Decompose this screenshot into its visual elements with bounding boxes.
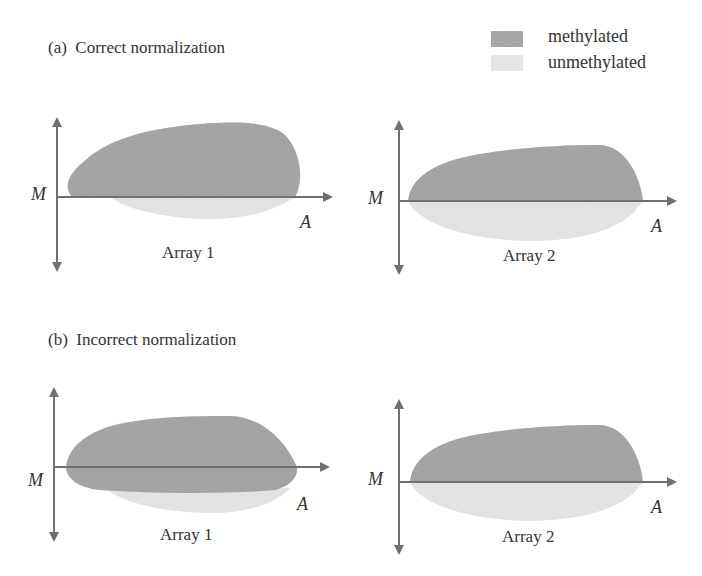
panel-b-array-1-plot bbox=[54, 392, 325, 537]
methylated-cloud bbox=[68, 123, 301, 197]
y-axis-label: M bbox=[368, 469, 383, 490]
array-label: Array 1 bbox=[162, 243, 214, 263]
legend-swatch-methylated bbox=[491, 31, 523, 47]
diagram-canvas bbox=[0, 0, 702, 576]
methylated-cloud bbox=[408, 145, 643, 201]
array-label: Array 2 bbox=[502, 527, 554, 547]
legend-label-unmethylated: unmethylated bbox=[548, 52, 646, 73]
panel-a-title: (a) Correct normalization bbox=[48, 38, 225, 58]
methylated-cloud bbox=[410, 425, 643, 482]
legend-swatch-unmethylated bbox=[491, 55, 523, 71]
unmethylated-cloud bbox=[110, 197, 295, 219]
panel-b-title: (b) Incorrect normalization bbox=[48, 330, 236, 350]
x-axis-label: A bbox=[651, 216, 662, 237]
x-axis-label: A bbox=[651, 497, 662, 518]
y-axis-label: M bbox=[28, 470, 43, 491]
y-axis-label: M bbox=[368, 188, 383, 209]
legend-label-methylated: methylated bbox=[548, 26, 628, 47]
array-label: Array 2 bbox=[503, 246, 555, 266]
unmethylated-cloud bbox=[408, 201, 642, 241]
x-axis-label: A bbox=[297, 494, 308, 515]
x-axis-label: A bbox=[300, 212, 311, 233]
array-label: Array 1 bbox=[160, 525, 212, 545]
y-axis-label: M bbox=[31, 184, 46, 205]
methylated-cloud bbox=[66, 416, 297, 493]
unmethylated-cloud bbox=[410, 482, 642, 521]
